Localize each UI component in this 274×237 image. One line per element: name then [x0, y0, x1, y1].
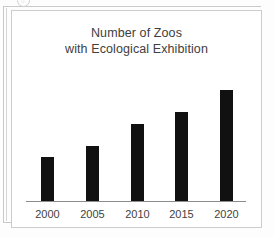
screenshot-root: ○ Number of Zoos with Ecological Exhibit…	[0, 0, 274, 237]
x-axis-line	[26, 201, 246, 202]
x-tick-label-2000: 2000	[26, 207, 70, 221]
bar-2015[interactable]	[175, 112, 188, 201]
x-tick-label-2020: 2020	[205, 207, 249, 221]
bar-2005[interactable]	[86, 146, 99, 201]
x-tick-label-2015: 2015	[160, 207, 204, 221]
bar-2000[interactable]	[41, 157, 54, 201]
bar-2010[interactable]	[131, 124, 144, 201]
plot-area: 2000 2005 2010 2015 2020	[26, 11, 246, 229]
x-tick-label-2005: 2005	[71, 207, 115, 221]
x-tick-label-2010: 2010	[116, 207, 160, 221]
circle-marker-glyph: ○	[18, 0, 27, 5]
bar-2020[interactable]	[220, 90, 233, 201]
chart-container[interactable]: Number of Zoos with Ecological Exhibitio…	[11, 10, 262, 228]
